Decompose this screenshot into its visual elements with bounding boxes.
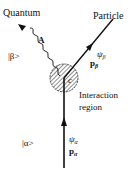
A-label: A — [38, 36, 45, 45]
beta-state-label: |β> — [8, 52, 19, 61]
psi-beta-label: ψβ — [97, 50, 106, 60]
interaction-label-line2: region — [79, 103, 102, 112]
p-alpha-label: pα — [69, 147, 77, 157]
scattering-diagram: Quantum Particle A |β> ψβ pβ c Interacti… — [0, 0, 137, 171]
particle-label: Particle — [93, 11, 124, 21]
alpha-state-label: |α> — [22, 139, 34, 148]
p-beta-label: pβ — [90, 59, 98, 69]
psi-alpha-label: ψα — [69, 135, 78, 145]
quantum-label: Quantum — [3, 8, 40, 18]
quantum-arrow-icon — [18, 24, 26, 31]
interaction-label-line1: Interaction — [79, 91, 118, 100]
incoming-arrow-icon — [61, 117, 67, 126]
c-label: c — [68, 76, 72, 85]
